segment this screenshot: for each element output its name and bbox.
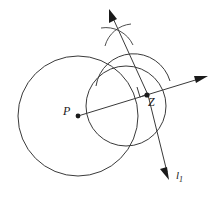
perpendicular-upper-segment — [112, 16, 148, 95]
ray-pz-arrowhead — [194, 76, 208, 83]
perpendicular-up-arrowhead — [109, 9, 117, 23]
label-line-l1: l1 — [176, 170, 183, 184]
geometry-figure: P Z l1 — [0, 0, 222, 198]
point-p-dot — [76, 114, 81, 119]
label-point-p: P — [63, 105, 70, 117]
label-point-z: Z — [148, 96, 155, 108]
diagram-canvas — [0, 0, 222, 198]
label-line-l1-subscript: 1 — [179, 175, 183, 184]
perpendicular-down-arrowhead — [160, 167, 169, 180]
semicircle-arc — [96, 54, 170, 86]
